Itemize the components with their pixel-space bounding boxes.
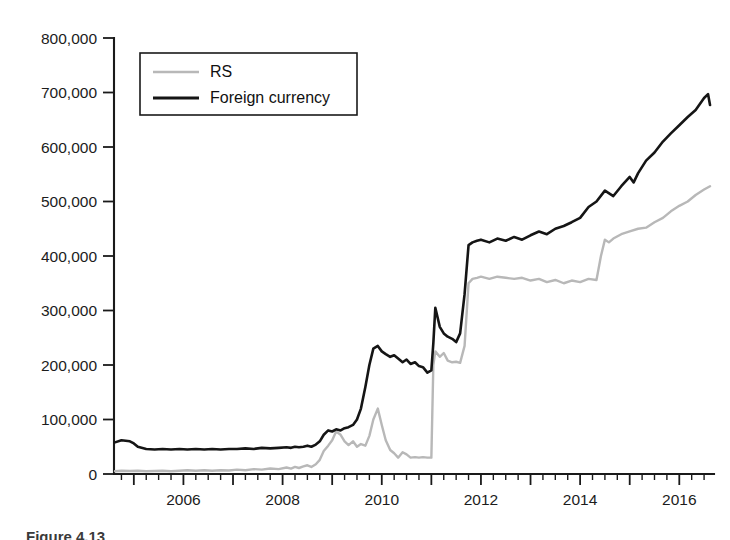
- y-tick-label-100000: 100,000: [41, 411, 97, 428]
- y-tick-label-800000: 800,000: [41, 30, 97, 47]
- x-tick-label-2014: 2014: [563, 491, 598, 508]
- figure-container: 0100,000200,000300,000400,000500,000600,…: [0, 0, 730, 540]
- y-tick-label-0: 0: [88, 466, 97, 483]
- x-tick-label-2008: 2008: [265, 491, 299, 508]
- series-line-rs: [115, 186, 710, 471]
- figure-caption: Figure 4.13: [26, 528, 236, 540]
- x-tick-label-2010: 2010: [365, 491, 400, 508]
- legend-label-foreign-currency: Foreign currency: [210, 89, 330, 106]
- y-tick-label-600000: 600,000: [41, 139, 97, 156]
- y-tick-label-300000: 300,000: [41, 302, 97, 319]
- x-tick-label-2012: 2012: [464, 491, 498, 508]
- legend-label-rs: RS: [210, 63, 232, 80]
- x-tick-label-2006: 2006: [166, 491, 200, 508]
- y-tick-label-200000: 200,000: [41, 357, 97, 374]
- y-tick-label-500000: 500,000: [41, 193, 97, 210]
- line-chart: 0100,000200,000300,000400,000500,000600,…: [0, 0, 730, 540]
- series-line-foreign-currency: [115, 94, 710, 449]
- y-tick-label-700000: 700,000: [41, 84, 97, 101]
- x-tick-label-2016: 2016: [662, 491, 696, 508]
- y-tick-label-400000: 400,000: [41, 248, 97, 265]
